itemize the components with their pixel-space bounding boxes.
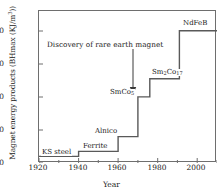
x-axis-title: Year — [0, 180, 223, 189]
step-label-ks-steel: KS steel — [41, 149, 72, 156]
x-tick-label-1920: 1920 — [18, 164, 58, 171]
y-axis-ticks — [39, 31, 43, 163]
step-label-smco5: SmCo5 — [109, 89, 135, 96]
magnet-energy-product-chart: Magnet energy products (BHmax (KJ/m3)) Y… — [0, 0, 223, 192]
step-label-alnico: Alnico — [94, 128, 118, 135]
y-tick-label-100: 100 — [0, 126, 4, 133]
x-tick-label-1940: 1940 — [58, 164, 98, 171]
step-label-ndfeb: NdFeB — [182, 20, 208, 27]
x-tick-label-1960: 1960 — [97, 164, 137, 171]
step-label-sm2co17: Sm2Co17 — [151, 69, 184, 76]
step-label-ferrite: Ferrite — [82, 143, 109, 150]
y-axis-title-text: Magnet energy products (BHmax (KJ/m — [8, 15, 17, 160]
y-axis-title: Magnet energy products (BHmax (KJ/m3)) — [7, 10, 16, 160]
step-label-ks-steel-text: KS steel — [42, 148, 71, 156]
step-label-smco5-base: SmCo — [110, 88, 131, 96]
y-axis-title-suffix: )) — [8, 6, 17, 12]
annotation-discovery-text: Discovery of rare earth magnet — [47, 40, 163, 49]
plot-svg — [39, 11, 217, 163]
step-label-smco5-subscript: 5 — [131, 90, 134, 96]
step-label-sm2co17-sm: Sm — [152, 68, 163, 76]
y-tick-label-400: 400 — [0, 27, 4, 34]
x-axis-ticks — [39, 158, 217, 163]
step-label-alnico-text: Alnico — [95, 127, 117, 135]
plot-area: KS steel Ferrite Alnico SmCo5 Sm2Co17 Nd… — [38, 10, 216, 162]
y-tick-label-0: 0 — [0, 159, 4, 166]
y-axis-title-exponent: 3 — [7, 11, 13, 14]
annotation-discovery-rare-earth-magnet: Discovery of rare earth magnet — [46, 41, 164, 48]
y-tick-label-300: 300 — [0, 60, 4, 67]
x-tick-label-1980: 1980 — [137, 164, 177, 171]
step-label-ndfeb-text: NdFeB — [183, 19, 207, 27]
step-label-ferrite-text: Ferrite — [83, 142, 108, 150]
step-label-sm2co17-co: Co — [167, 68, 177, 76]
step-label-sm2co17-sub17: 17 — [176, 70, 182, 76]
x-tick-label-2000: 2000 — [176, 164, 216, 171]
y-tick-label-200: 200 — [0, 93, 4, 100]
